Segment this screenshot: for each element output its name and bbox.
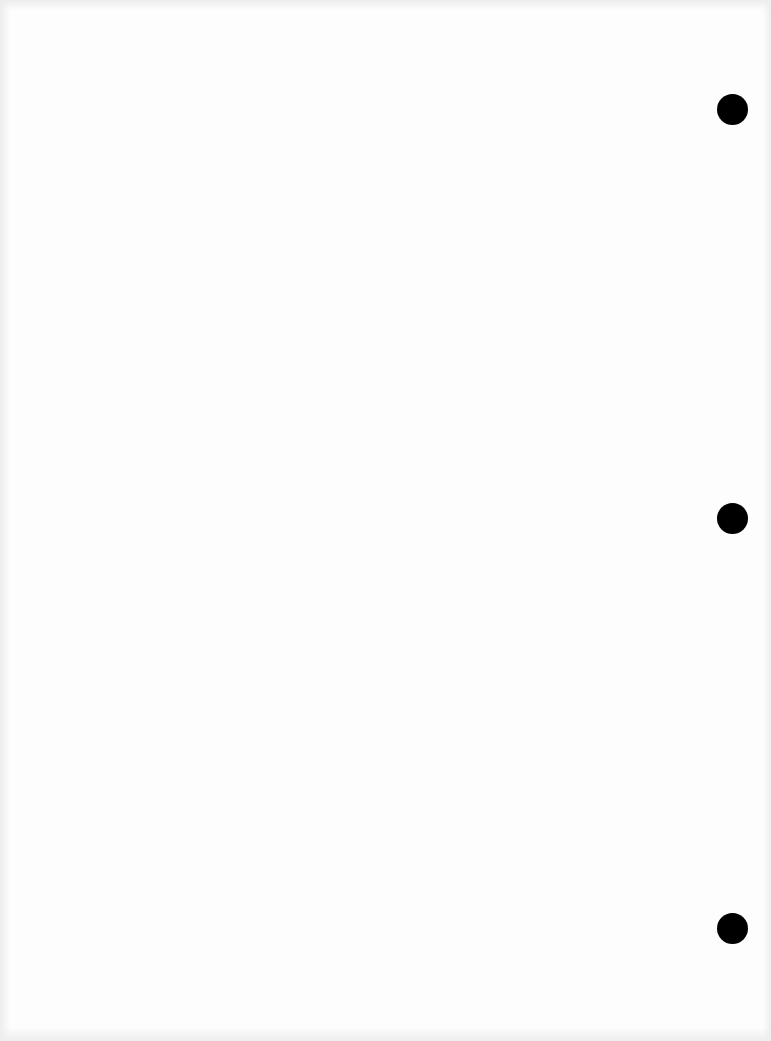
- scan-edge-bottom: [0, 1027, 771, 1041]
- blank-page: [0, 0, 771, 1041]
- scan-edge-left: [0, 0, 10, 1041]
- punch-hole-middle: [717, 503, 748, 534]
- punch-hole-top: [717, 94, 748, 125]
- scan-edge-top: [0, 0, 771, 10]
- scan-edge-right: [763, 0, 771, 1041]
- punch-hole-bottom: [717, 913, 748, 944]
